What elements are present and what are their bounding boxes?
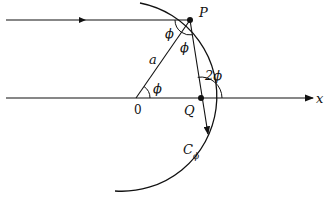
label-caustic-subscript: ϕ (193, 151, 199, 161)
label-angle-phi-incident: ϕ (165, 26, 174, 41)
angle-arc-origin (144, 87, 150, 99)
radius-line (136, 20, 190, 98)
angle-arc-p-reflected (182, 32, 193, 35)
label-radius: a (149, 52, 157, 67)
label-origin: 0 (134, 103, 142, 117)
label-angle-phi-origin: ϕ (153, 81, 162, 96)
label-angle-phi-reflected: ϕ (180, 40, 189, 55)
reflection-diagram: P Q 0 a x ϕ ϕ ϕ 2ϕ C ϕ (0, 0, 328, 204)
label-caustic: C (183, 142, 193, 157)
point-q-dot (198, 95, 204, 101)
label-x-axis: x (316, 91, 324, 106)
label-angle-2phi: 2ϕ (204, 68, 222, 83)
label-p: P (198, 5, 208, 20)
incoming-ray-arrow-icon (79, 17, 86, 23)
label-q: Q (184, 103, 195, 118)
point-p-dot (187, 17, 193, 23)
